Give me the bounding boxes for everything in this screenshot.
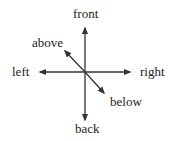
label-below: below — [110, 95, 142, 108]
label-right: right — [140, 65, 165, 78]
below-axis — [85, 72, 104, 93]
label-front: front — [73, 7, 98, 20]
label-above: above — [32, 36, 63, 49]
above-axis — [65, 51, 85, 72]
label-back: back — [75, 122, 100, 135]
label-left: left — [12, 65, 29, 78]
